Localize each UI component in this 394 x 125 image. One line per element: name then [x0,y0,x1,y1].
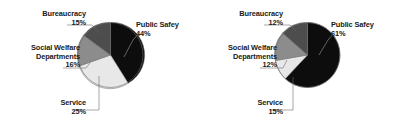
label-service: Service 25% [36,99,86,116]
label-bureaucracy-value: 12% [211,19,283,28]
label-public-safety: Public Safey 44% [136,21,194,38]
label-social-welfare: Social Welfare Departments 12% [199,44,277,70]
label-service-name: Service [60,98,86,107]
label-public-safety-name: Public Safey [331,20,374,29]
label-service-value: 15% [233,108,283,117]
pie-chart-right: Bureaucracy 12% Social Welfare Departmen… [197,0,394,125]
label-public-safety: Public Safey 61% [331,21,389,38]
label-service: Service 15% [233,99,283,116]
pie-charts-figure: Bureaucracy 15% Social Welfare Departmen… [0,0,394,125]
label-public-safety-value: 61% [331,30,389,39]
label-social-welfare: Social Welfare Departments 16% [2,44,80,70]
label-bureaucracy-name: Bureaucracy [42,9,86,18]
label-social-welfare-name-line1: Social Welfare [228,43,277,52]
label-service-value: 25% [36,108,86,117]
label-social-welfare-value: 12% [199,61,277,70]
label-bureaucracy-value: 15% [14,19,86,28]
label-social-welfare-value: 16% [2,61,80,70]
label-bureaucracy-name: Bureaucracy [239,9,283,18]
label-bureaucracy: Bureaucracy 12% [211,10,283,27]
label-social-welfare-name-line1: Social Welfare [31,43,80,52]
label-service-name: Service [257,98,283,107]
pie-chart-left: Bureaucracy 15% Social Welfare Departmen… [0,0,197,125]
label-public-safety-value: 44% [136,30,194,39]
label-bureaucracy: Bureaucracy 15% [14,10,86,27]
label-public-safety-name: Public Safey [136,20,179,29]
